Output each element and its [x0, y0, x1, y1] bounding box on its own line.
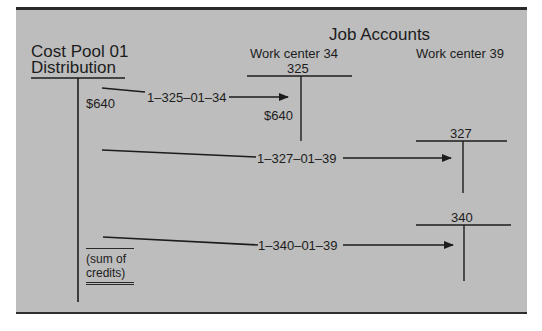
sum-of-credits-line1: (sum of: [86, 252, 134, 266]
cost-pool-subtitle: Distribution: [31, 59, 116, 76]
work-center-39-label: Work center 39: [416, 47, 504, 60]
account-327-number: 327: [450, 127, 472, 140]
t-account-340: [416, 225, 511, 281]
transfer-code-325: 1–325–01–34: [147, 91, 227, 104]
sum-of-credits-line2: credits): [86, 266, 134, 280]
account-325-debit-amount: $640: [264, 109, 293, 122]
sum-of-credits-total: (sum of credits): [86, 248, 134, 285]
work-center-34-label: Work center 34: [250, 47, 338, 60]
transfer-code-340: 1–340–01–39: [258, 239, 338, 252]
t-account-327: [416, 141, 507, 193]
account-325-number: 325: [287, 62, 309, 75]
t-account-325: [247, 76, 352, 141]
account-340-number: 340: [451, 211, 473, 224]
cost-pool-credit-amount: $640: [86, 97, 115, 110]
job-accounts-title: Job Accounts: [329, 26, 430, 43]
transfer-code-327: 1–327–01–39: [257, 152, 337, 165]
